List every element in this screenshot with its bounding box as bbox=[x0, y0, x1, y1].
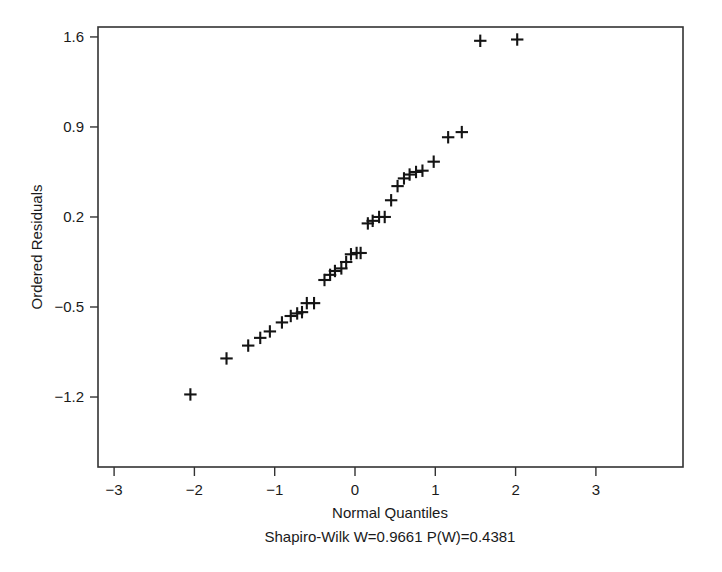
y-axis-title: Ordered Residuals bbox=[28, 184, 45, 309]
x-tick-label: −3 bbox=[106, 481, 123, 498]
x-axis-title: Normal Quantiles bbox=[332, 504, 448, 521]
y-tick-label: 1.6 bbox=[63, 28, 84, 45]
x-tick-label: 2 bbox=[511, 481, 519, 498]
x-tick-label: −1 bbox=[266, 481, 283, 498]
x-tick-label: 3 bbox=[592, 481, 600, 498]
shapiro-wilk-caption: Shapiro-Wilk W=0.9661 P(W)=0.4381 bbox=[265, 528, 516, 545]
y-tick-label: 0.2 bbox=[63, 208, 84, 225]
x-tick-label: 1 bbox=[431, 481, 439, 498]
y-tick-label: −1.2 bbox=[54, 388, 84, 405]
x-tick-label: −2 bbox=[186, 481, 203, 498]
y-tick-label: −0.5 bbox=[54, 298, 84, 315]
y-tick-label: 0.9 bbox=[63, 118, 84, 135]
x-tick-label: 0 bbox=[351, 481, 359, 498]
qq-plot-figure: 1.60.90.2−0.5−1.2 −3−2−10123 Ordered Res… bbox=[0, 0, 722, 572]
